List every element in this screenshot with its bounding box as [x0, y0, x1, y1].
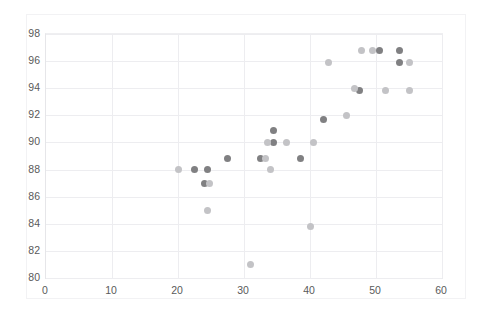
- gridline-x-10: [112, 34, 113, 278]
- plot-area: [45, 33, 443, 279]
- data-point: [204, 166, 211, 173]
- data-point: [270, 139, 277, 146]
- gridline-x-20: [178, 34, 179, 278]
- data-point: [264, 139, 271, 146]
- y-tick-label-94: 94: [4, 82, 40, 93]
- y-tick-label-92: 92: [4, 109, 40, 120]
- data-point: [283, 139, 290, 146]
- data-point: [297, 155, 304, 162]
- data-point: [224, 155, 231, 162]
- data-point: [310, 139, 317, 146]
- data-point: [343, 112, 350, 119]
- y-tick-label-96: 96: [4, 55, 40, 66]
- data-point: [325, 59, 332, 66]
- data-point: [191, 166, 198, 173]
- data-point: [320, 116, 327, 123]
- x-tick-label-10: 10: [91, 285, 131, 296]
- chart-title: [0, 0, 479, 3]
- data-point: [206, 180, 213, 187]
- data-point: [307, 223, 314, 230]
- scatter-chart: 80828486889092949698 0102030405060: [0, 0, 479, 314]
- x-tick-label-60: 60: [421, 285, 461, 296]
- data-point: [262, 155, 269, 162]
- data-point: [376, 47, 383, 54]
- y-tick-label-98: 98: [4, 28, 40, 39]
- gridline-x-50: [376, 34, 377, 278]
- data-point: [369, 47, 376, 54]
- data-point: [204, 207, 211, 214]
- y-tick-label-90: 90: [4, 136, 40, 147]
- y-tick-label-88: 88: [4, 163, 40, 174]
- x-tick-label-50: 50: [355, 285, 395, 296]
- gridline-x-30: [244, 34, 245, 278]
- gridline-x-40: [310, 34, 311, 278]
- data-point: [406, 87, 413, 94]
- x-tick-label-30: 30: [223, 285, 263, 296]
- gridline-x-60: [442, 34, 443, 278]
- y-tick-label-82: 82: [4, 245, 40, 256]
- x-tick-label-40: 40: [289, 285, 329, 296]
- data-point: [396, 47, 403, 54]
- data-point: [382, 87, 389, 94]
- data-point: [358, 47, 365, 54]
- data-point: [406, 59, 413, 66]
- y-tick-label-80: 80: [4, 272, 40, 283]
- y-tick-label-86: 86: [4, 190, 40, 201]
- x-tick-label-20: 20: [157, 285, 197, 296]
- data-point: [270, 127, 277, 134]
- data-point: [396, 59, 403, 66]
- y-tick-label-84: 84: [4, 218, 40, 229]
- x-tick-label-0: 0: [25, 285, 65, 296]
- data-point: [267, 166, 274, 173]
- gridline-y-80: [46, 278, 442, 279]
- data-point: [247, 261, 254, 268]
- data-point: [175, 166, 182, 173]
